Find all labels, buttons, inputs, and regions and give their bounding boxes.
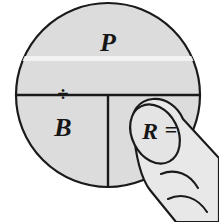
label-p: P xyxy=(99,28,117,57)
equals-symbol: = xyxy=(165,117,178,142)
percentage-circle-diagram: P B ÷ R = xyxy=(0,0,219,222)
divide-symbol: ÷ xyxy=(57,82,69,106)
label-b: B xyxy=(53,113,71,142)
label-r: R xyxy=(141,118,158,144)
figure-container: P B ÷ R = xyxy=(0,0,219,222)
